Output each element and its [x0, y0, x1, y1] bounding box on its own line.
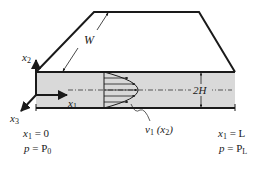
- width-dimension-arrow: [63, 48, 78, 71]
- top-plate-outline: [36, 12, 235, 72]
- width-dimension-arrow: [97, 13, 108, 30]
- axis-x3-label: x3: [9, 112, 19, 126]
- channel-flow-diagram: W x2 x1 x3 v1 (x2) 2H x1 = 0 p = P0 x1 =…: [0, 0, 260, 173]
- width-label: W: [84, 33, 95, 47]
- velocity-label: v1 (x2): [145, 123, 173, 137]
- axis-x3-arrow: [21, 95, 36, 111]
- axis-x2-label: x2: [21, 51, 31, 65]
- inlet-pressure-label: p = P0: [23, 142, 51, 156]
- outlet-position-label: x1 = L: [217, 127, 246, 141]
- outlet-pressure-label: p = PL: [218, 142, 247, 156]
- gap-label: 2H: [193, 84, 208, 96]
- inlet-position-label: x1 = 0: [22, 127, 50, 141]
